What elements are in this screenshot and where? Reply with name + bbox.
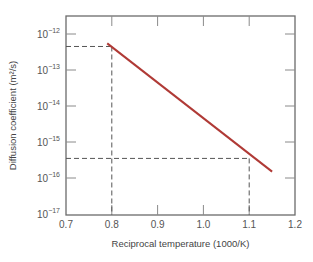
diffusion-arrhenius-chart: 0.70.80.91.01.11.210−1210−1310−1410−1510… [0, 0, 313, 262]
x-tick-label: 0.7 [59, 219, 73, 230]
y-tick-label: 10−15 [37, 135, 60, 148]
y-tick-label: 10−17 [37, 207, 60, 220]
y-axis-title: Diffusion coefficient (m²/s) [7, 61, 18, 170]
y-tick-label: 10−16 [37, 171, 60, 184]
data-line [107, 43, 272, 171]
x-tick-label: 1.2 [288, 219, 302, 230]
plot-svg: 0.70.80.91.01.11.210−1210−1310−1410−1510… [0, 0, 313, 262]
x-tick-label: 0.9 [151, 219, 165, 230]
x-tick-label: 1.0 [196, 219, 210, 230]
y-tick-label: 10−12 [37, 27, 60, 40]
y-tick-label: 10−13 [37, 63, 60, 76]
x-axis-title: Reciprocal temperature (1000/K) [112, 238, 250, 249]
y-tick-label: 10−14 [37, 99, 60, 112]
plot-frame [66, 16, 295, 215]
x-tick-label: 0.8 [105, 219, 119, 230]
x-tick-label: 1.1 [242, 219, 256, 230]
